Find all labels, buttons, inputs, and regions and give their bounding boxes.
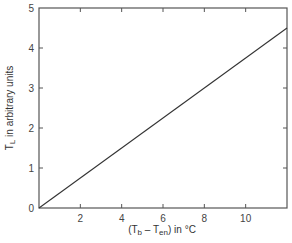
x-tick-label: 4: [119, 213, 125, 224]
y-tick-label: 0: [28, 203, 34, 214]
data-series: [39, 28, 287, 208]
y-tick-label: 4: [28, 43, 34, 54]
y-tick-label: 2: [28, 123, 34, 134]
x-tick-label: 8: [202, 213, 208, 224]
x-tick-label: 10: [240, 213, 252, 224]
y-axis-ticks: 012345: [28, 3, 287, 214]
x-tick-label: 2: [78, 213, 84, 224]
line-chart: 012345 246810 (Tb – Ten) in °C TL in arb…: [0, 0, 292, 243]
series-line: [39, 28, 287, 208]
x-axis-label: (Tb – Ten) in °C: [128, 224, 196, 237]
plot-border: [39, 8, 287, 208]
y-tick-label: 1: [28, 163, 34, 174]
y-tick-label: 3: [28, 83, 34, 94]
x-tick-label: 6: [160, 213, 166, 224]
y-tick-label: 5: [28, 3, 34, 14]
x-axis-ticks: 246810: [78, 8, 252, 224]
y-axis-label: TL in arbitrary units: [4, 66, 17, 150]
plot-frame: [39, 8, 287, 208]
